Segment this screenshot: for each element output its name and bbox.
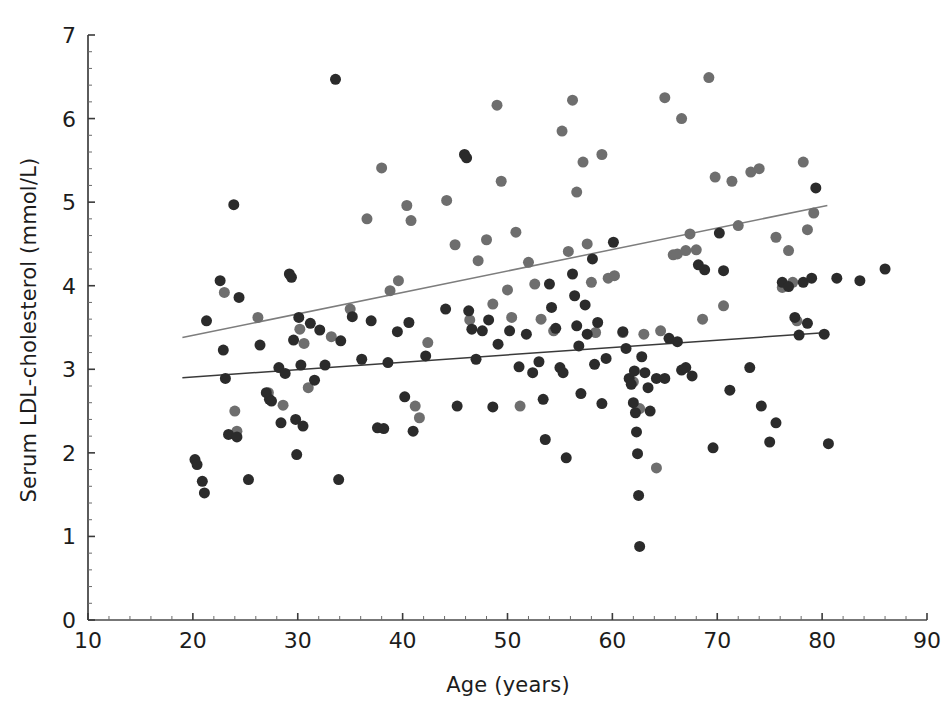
data-point	[718, 300, 729, 311]
data-point	[309, 375, 320, 386]
data-point	[764, 436, 775, 447]
data-point	[266, 396, 277, 407]
data-point	[481, 234, 492, 245]
data-point	[471, 354, 482, 365]
data-point	[569, 290, 580, 301]
data-point	[378, 423, 389, 434]
data-point	[634, 541, 645, 552]
x-tick-label: 50	[494, 628, 522, 653]
data-point	[215, 275, 226, 286]
data-point	[798, 157, 809, 168]
y-tick-label: 7	[62, 23, 76, 48]
data-point	[703, 72, 714, 83]
data-point	[228, 199, 239, 210]
data-point	[422, 337, 433, 348]
data-point	[326, 331, 337, 342]
data-point	[385, 285, 396, 296]
x-tick-label: 20	[179, 628, 207, 653]
data-point	[502, 284, 513, 295]
data-point	[466, 324, 477, 335]
data-point	[403, 317, 414, 328]
data-point	[356, 354, 367, 365]
data-point	[645, 406, 656, 417]
data-point	[305, 318, 316, 329]
data-point	[710, 172, 721, 183]
data-point	[655, 325, 666, 336]
data-point	[493, 339, 504, 350]
data-point	[770, 232, 781, 243]
data-point	[527, 367, 538, 378]
data-point	[536, 314, 547, 325]
data-point	[582, 238, 593, 249]
data-point	[596, 398, 607, 409]
data-point	[708, 442, 719, 453]
data-point	[638, 329, 649, 340]
data-point	[802, 318, 813, 329]
data-point	[586, 277, 597, 288]
data-point	[680, 245, 691, 256]
data-point	[243, 474, 254, 485]
data-point	[197, 476, 208, 487]
data-point	[523, 257, 534, 268]
data-point	[563, 246, 574, 257]
y-tick-label: 6	[62, 107, 76, 132]
data-point	[297, 421, 308, 432]
data-point	[540, 434, 551, 445]
data-point	[275, 417, 286, 428]
data-point	[575, 388, 586, 399]
data-point	[546, 302, 557, 313]
data-point	[366, 315, 377, 326]
data-point	[293, 312, 304, 323]
data-point	[632, 448, 643, 459]
data-point	[314, 325, 325, 336]
data-point	[376, 162, 387, 173]
data-point	[672, 336, 683, 347]
data-point	[414, 412, 425, 423]
data-point	[783, 245, 794, 256]
data-point	[294, 324, 305, 335]
data-point	[295, 360, 306, 371]
data-point	[557, 126, 568, 137]
data-point	[192, 459, 203, 470]
data-point	[592, 317, 603, 328]
data-point	[278, 400, 289, 411]
data-point	[280, 368, 291, 379]
data-point	[714, 228, 725, 239]
data-point	[255, 340, 266, 351]
data-point	[234, 292, 245, 303]
data-point	[756, 401, 767, 412]
data-point	[452, 401, 463, 412]
y-axis-title: Serum LDL-cholesterol (mmol/L)	[17, 158, 41, 503]
data-point	[492, 100, 503, 111]
data-point	[659, 373, 670, 384]
data-point	[199, 487, 210, 498]
data-point	[578, 157, 589, 168]
data-point	[410, 401, 421, 412]
data-point	[629, 365, 640, 376]
y-tick-label: 5	[62, 190, 76, 215]
data-point	[596, 149, 607, 160]
data-point	[819, 329, 830, 340]
data-point	[529, 279, 540, 290]
data-point	[483, 314, 494, 325]
data-point	[504, 325, 515, 336]
data-point	[831, 273, 842, 284]
data-point	[286, 272, 297, 283]
data-point	[601, 353, 612, 364]
data-point	[487, 299, 498, 310]
data-point	[393, 275, 404, 286]
data-point	[558, 367, 569, 378]
data-point	[399, 391, 410, 402]
data-point	[299, 338, 310, 349]
data-point	[571, 187, 582, 198]
y-tick-label: 4	[62, 274, 76, 299]
data-point	[609, 270, 620, 281]
data-point	[291, 449, 302, 460]
y-tick-label: 2	[62, 441, 76, 466]
data-point	[621, 343, 632, 354]
data-point	[628, 397, 639, 408]
data-point	[582, 329, 593, 340]
data-point	[441, 195, 452, 206]
x-tick-label: 80	[808, 628, 836, 653]
data-point	[802, 224, 813, 235]
